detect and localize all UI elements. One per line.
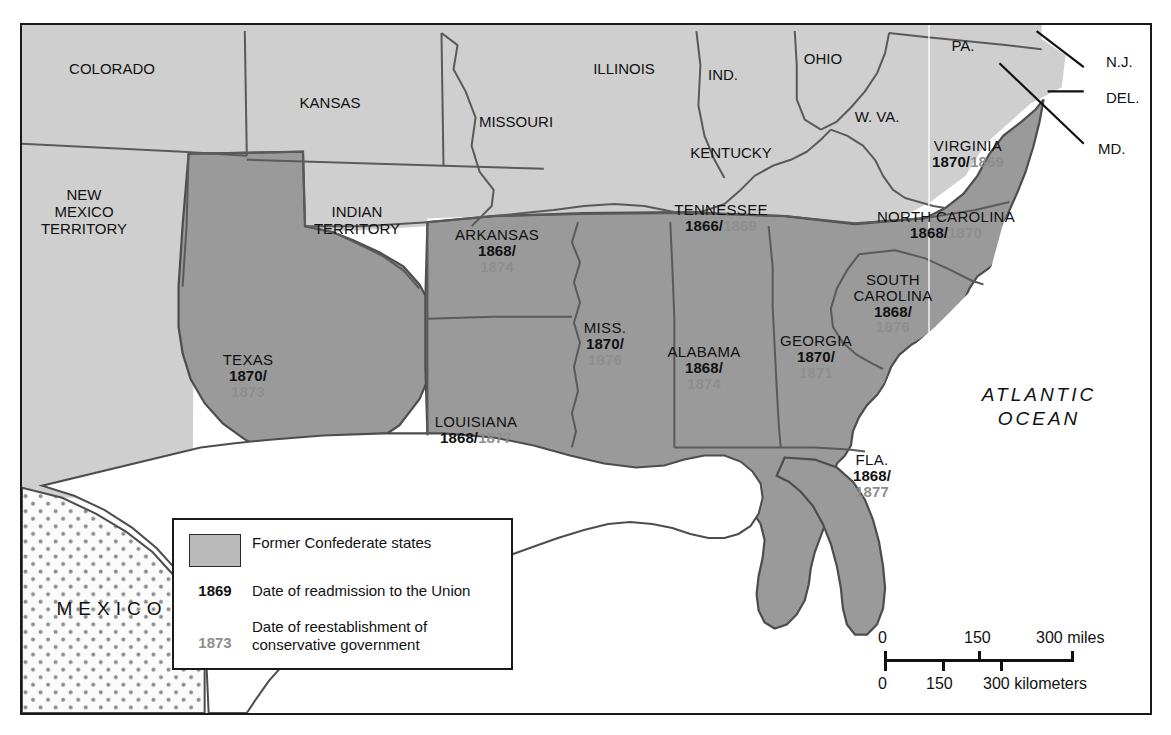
state-dates: 1868/1876: [853, 304, 932, 336]
state-label-miss: MISS.1870/1876: [584, 320, 626, 367]
legend-date-gray: 1873: [198, 634, 231, 651]
conservative-date: 1870: [948, 224, 982, 241]
scale-miles-end: 300 miles: [1036, 629, 1104, 647]
readmission-date: 1868/: [668, 360, 741, 376]
scale-tick-miles-300: [1071, 651, 1074, 662]
state-label-fla: FLA.1868/1877: [853, 452, 891, 499]
conservative-date: 1871: [780, 365, 852, 381]
conservative-date: 1873: [223, 384, 274, 400]
state-label-north-carolina: NORTH CAROLINA1868/1870: [877, 209, 1015, 241]
state-label-illinois: ILLINOIS: [593, 60, 655, 77]
scale-tick-miles-150: [978, 651, 981, 662]
callout-label-md: MD.: [1098, 140, 1126, 157]
state-name: MISS.: [584, 320, 626, 336]
scale-miles-mid: 150: [964, 629, 991, 647]
state-name: VIRGINIA: [932, 138, 1004, 154]
state-name: TENNESSEE: [674, 202, 768, 218]
scan-artifact: [928, 25, 930, 713]
state-dates: 1868/1877: [853, 468, 891, 500]
legend-conservative-line1: Date of reestablishment of: [252, 618, 427, 636]
conservative-date: 1877: [853, 484, 891, 500]
legend-date-black-cell: 1869: [184, 582, 246, 600]
readmission-date: 1868/: [853, 304, 932, 320]
callout-label-n-j: N.J.: [1106, 53, 1133, 70]
state-label-pa: PA.: [951, 37, 974, 54]
conservative-date: 1876: [584, 352, 626, 368]
state-label-kentucky: KENTUCKY: [690, 144, 772, 161]
state-label-indian-territory: INDIANTERRITORY: [314, 203, 400, 237]
state-name: LOUISIANA: [435, 414, 518, 430]
conservative-date: 1869: [723, 217, 757, 234]
map-screenshot: COLORADOKANSASNEWMEXICOTERRITORYINDIANTE…: [0, 0, 1171, 735]
state-dates: 1868/1870: [877, 225, 1015, 241]
state-dates: 1868/1877: [435, 430, 518, 446]
state-label-georgia: GEORGIA1870/1871: [780, 333, 852, 380]
legend-date-black: 1869: [198, 582, 231, 599]
confederate-swatch: [189, 534, 241, 567]
legend-row-swatch: Former Confederate states: [184, 534, 431, 571]
scale-km-end: 300 kilometers: [983, 675, 1087, 693]
conservative-date: 1876: [853, 319, 932, 335]
state-dates: 1870/1869: [932, 154, 1004, 170]
state-dates: 1868/1874: [455, 243, 539, 275]
state-name: TEXAS: [223, 352, 274, 368]
legend-row-conservative: 1873 Date of reestablishment of conserva…: [184, 618, 427, 654]
legend-conservative-line2: conservative government: [252, 636, 427, 654]
state-label-ind: IND.: [708, 66, 738, 83]
state-name: SOUTHCAROLINA: [853, 272, 932, 304]
state-dates: 1870/1876: [584, 336, 626, 368]
legend-readmission-label: Date of readmission to the Union: [246, 582, 470, 600]
state-label-south-carolina: SOUTHCAROLINA1868/1876: [853, 272, 932, 335]
scale-miles-start: 0: [878, 629, 887, 647]
map-scale-bar: 0 150 300 miles 0 150 300 kilometers: [878, 629, 1110, 703]
readmission-date: 1868/: [853, 468, 891, 484]
state-name: ALABAMA: [668, 344, 741, 360]
readmission-date: 1870/: [780, 349, 852, 365]
state-label-kansas: KANSAS: [300, 94, 361, 111]
state-label-colorado: COLORADO: [69, 60, 155, 77]
state-label-missouri: MISSOURI: [479, 113, 553, 130]
readmission-date: 1870/: [223, 368, 274, 384]
legend-conservative-label: Date of reestablishment of conservative …: [246, 618, 427, 654]
state-dates: 1870/1871: [780, 349, 852, 381]
state-label-w-va: W. VA.: [855, 108, 900, 125]
conservative-date: 1869: [970, 153, 1004, 170]
conservative-date: 1874: [455, 259, 539, 275]
state-label-texas: TEXAS1870/1873: [223, 352, 274, 399]
callout-label-del: DEL.: [1106, 89, 1139, 106]
state-label-new-mexico-territory: NEWMEXICOTERRITORY: [41, 186, 127, 237]
state-dates: 1866/1869: [674, 218, 768, 234]
state-label-tennessee: TENNESSEE1866/1869: [674, 202, 768, 234]
state-name: ARKANSAS: [455, 227, 539, 243]
state-label-ohio: OHIO: [804, 50, 842, 67]
legend-swatch-cell: [184, 534, 246, 571]
readmission-date: 1868/: [455, 243, 539, 259]
state-dates: 1868/1874: [668, 360, 741, 392]
conservative-date: 1874: [668, 376, 741, 392]
state-dates: 1870/1873: [223, 368, 274, 400]
scale-km-mid: 150: [926, 675, 953, 693]
state-name: NORTH CAROLINA: [877, 209, 1015, 225]
scale-tick-km-150: [942, 659, 945, 671]
readmission-date: 1870/: [584, 336, 626, 352]
scale-km-start: 0: [878, 675, 887, 693]
legend-swatch-label: Former Confederate states: [246, 534, 431, 552]
state-label-louisiana: LOUISIANA1868/1877: [435, 414, 518, 446]
state-name: GEORGIA: [780, 333, 852, 349]
legend-date-gray-cell: 1873: [184, 618, 246, 652]
atlantic-ocean-label: ATLANTIC OCEAN: [982, 383, 1096, 432]
state-name: FLA.: [853, 452, 891, 468]
state-label-arkansas: ARKANSAS1868/1874: [455, 227, 539, 274]
state-label-virginia: VIRGINIA1870/1869: [932, 138, 1004, 170]
legend-row-readmission: 1869 Date of readmission to the Union: [184, 582, 470, 600]
map-legend: Former Confederate states 1869 Date of r…: [172, 518, 513, 670]
scale-tick-km-300: [1000, 659, 1003, 671]
mexico-label: MEXICO: [57, 598, 168, 620]
conservative-date: 1877: [478, 429, 512, 446]
scale-tick-km-0: [884, 659, 887, 671]
state-label-alabama: ALABAMA1868/1874: [668, 344, 741, 391]
